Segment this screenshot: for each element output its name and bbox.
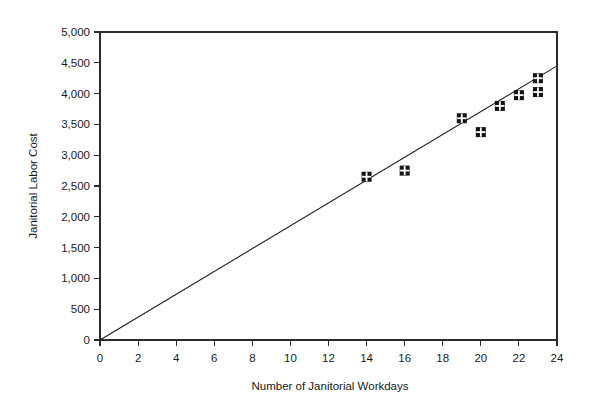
data-point-series bbox=[362, 73, 543, 182]
scatter-chart: 05001,0001,5002,0002,5003,0003,5004,0004… bbox=[0, 0, 593, 407]
y-tick-label: 3,000 bbox=[61, 149, 90, 161]
x-tick-label: 24 bbox=[551, 352, 564, 364]
data-point-marker bbox=[533, 87, 543, 97]
y-tick-label: 0 bbox=[84, 334, 90, 346]
plot-frame bbox=[100, 32, 557, 340]
x-tick-label: 6 bbox=[211, 352, 217, 364]
data-point-marker bbox=[362, 172, 372, 182]
y-tick-label: 4,500 bbox=[61, 57, 90, 69]
y-tick-label: 4,000 bbox=[61, 88, 90, 100]
y-tick-label: 3,500 bbox=[61, 118, 90, 130]
x-axis-tick-labels: 024681012141618202224 bbox=[97, 352, 564, 364]
x-tick-label: 10 bbox=[284, 352, 297, 364]
data-point-marker bbox=[514, 90, 524, 100]
x-tick-label: 4 bbox=[173, 352, 180, 364]
x-axis-ticks bbox=[100, 340, 557, 346]
data-point-marker bbox=[476, 127, 486, 137]
y-tick-label: 1,500 bbox=[61, 242, 90, 254]
regression-line bbox=[100, 66, 557, 340]
x-tick-label: 16 bbox=[398, 352, 411, 364]
y-tick-label: 5,000 bbox=[61, 26, 90, 38]
y-axis-tick-labels: 05001,0001,5002,0002,5003,0003,5004,0004… bbox=[61, 26, 90, 346]
y-tick-label: 500 bbox=[71, 303, 90, 315]
x-tick-label: 12 bbox=[322, 352, 335, 364]
y-tick-label: 1,000 bbox=[61, 272, 90, 284]
x-axis-title: Number of Janitorial Workdays bbox=[251, 380, 408, 392]
regression-line-path bbox=[100, 66, 557, 340]
x-tick-label: 14 bbox=[360, 352, 373, 364]
data-point-marker bbox=[495, 101, 505, 111]
x-tick-label: 2 bbox=[135, 352, 141, 364]
x-tick-label: 8 bbox=[249, 352, 255, 364]
x-tick-label: 18 bbox=[436, 352, 449, 364]
x-tick-label: 22 bbox=[513, 352, 526, 364]
y-axis-title: Janitorial Labor Cost bbox=[27, 132, 39, 238]
x-tick-label: 20 bbox=[474, 352, 487, 364]
y-tick-label: 2,000 bbox=[61, 211, 90, 223]
chart-canvas: 05001,0001,5002,0002,5003,0003,5004,0004… bbox=[0, 0, 593, 407]
data-point-marker bbox=[400, 166, 410, 176]
x-tick-label: 0 bbox=[97, 352, 103, 364]
y-tick-label: 2,500 bbox=[61, 180, 90, 192]
data-point-marker bbox=[457, 113, 467, 123]
y-axis-ticks bbox=[94, 32, 100, 340]
data-point-marker bbox=[533, 73, 543, 83]
